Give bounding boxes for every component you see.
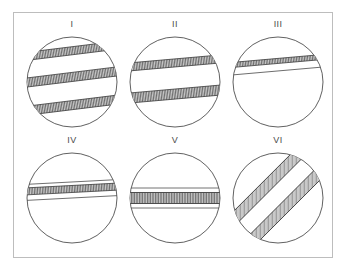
panel-iv: IV [20, 135, 124, 255]
figure-frame: I [13, 12, 333, 258]
sphere-diagram-iv [20, 145, 124, 255]
panel-label-iv: IV [20, 135, 124, 145]
panel-label-vi: VI [226, 135, 330, 145]
panel-label-iii: III [226, 19, 330, 29]
panel-label-ii: II [123, 19, 227, 29]
sphere-diagram-iii [226, 29, 330, 139]
panel-vi: VI [226, 135, 330, 255]
panel-label-i: I [20, 19, 124, 29]
panel-label-v: V [123, 135, 227, 145]
sphere-diagram-ii [123, 29, 227, 139]
panel-i: I [20, 19, 124, 139]
sphere-diagram-v [123, 145, 227, 255]
sphere-outline-ii [130, 37, 220, 127]
sphere-diagram-vi [226, 145, 330, 255]
sphere-outline-iii [233, 37, 323, 127]
panel-ii: II [123, 19, 227, 139]
panel-v: V [123, 135, 227, 255]
panel-iii: III [226, 19, 330, 139]
sphere-diagram-i [20, 29, 124, 139]
figure-root: I [0, 0, 346, 270]
band-v-1 [123, 193, 227, 204]
